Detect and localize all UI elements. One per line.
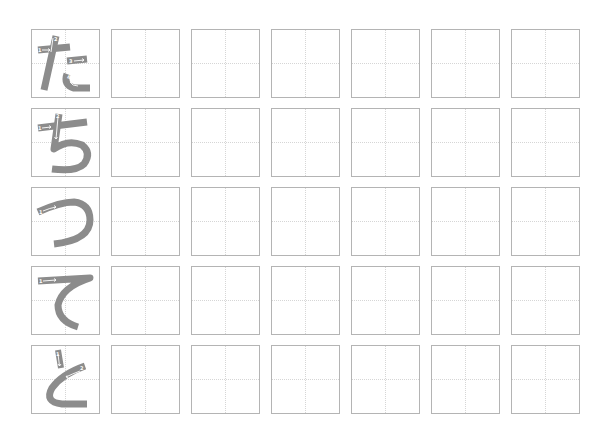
practice-box[interactable]: [111, 266, 180, 335]
practice-box[interactable]: [351, 29, 420, 98]
model-box-tsu: 1: [31, 187, 100, 256]
practice-row-to: 1 2: [31, 345, 591, 414]
practice-box[interactable]: [111, 187, 180, 256]
stroke-number: 1: [56, 351, 60, 357]
practice-box[interactable]: [431, 345, 500, 414]
practice-box[interactable]: [191, 187, 260, 256]
practice-box[interactable]: [431, 266, 500, 335]
practice-box[interactable]: [191, 108, 260, 177]
practice-box[interactable]: [271, 266, 340, 335]
practice-box[interactable]: [511, 29, 580, 98]
practice-box[interactable]: [111, 29, 180, 98]
practice-box[interactable]: [271, 29, 340, 98]
practice-box[interactable]: [271, 187, 340, 256]
practice-box[interactable]: [511, 108, 580, 177]
model-box-te: 1: [31, 266, 100, 335]
stroke-number: 1: [39, 209, 43, 215]
practice-box[interactable]: [191, 266, 260, 335]
practice-box[interactable]: [511, 345, 580, 414]
practice-box[interactable]: [431, 187, 500, 256]
practice-box[interactable]: [191, 29, 260, 98]
practice-box[interactable]: [351, 108, 420, 177]
stroke-number: 2: [56, 113, 60, 119]
stroke-order-glyph-te: 1: [32, 267, 99, 334]
practice-box[interactable]: [431, 108, 500, 177]
practice-box[interactable]: [111, 108, 180, 177]
stroke-order-glyph-tsu: 1: [32, 188, 99, 255]
model-box-to: 1 2: [31, 345, 100, 414]
stroke-order-glyph-chi: 1 2: [32, 109, 99, 176]
practice-box[interactable]: [431, 29, 500, 98]
practice-box[interactable]: [271, 108, 340, 177]
stroke-number: 4: [67, 74, 71, 80]
stroke-order-glyph-ta: 1 2 3 4: [32, 30, 99, 97]
practice-box[interactable]: [351, 345, 420, 414]
stroke-number: 1: [38, 47, 42, 53]
practice-box[interactable]: [191, 345, 260, 414]
stroke-number: 3: [69, 58, 73, 64]
stroke-number: 2: [80, 365, 84, 371]
stroke-number: 1: [38, 125, 42, 131]
model-box-chi: 1 2: [31, 108, 100, 177]
practice-box[interactable]: [511, 187, 580, 256]
practice-box[interactable]: [111, 345, 180, 414]
practice-row-ta: 1 2 3 4: [31, 29, 591, 98]
practice-row-chi: 1 2: [31, 108, 591, 177]
practice-box[interactable]: [351, 266, 420, 335]
practice-box[interactable]: [511, 266, 580, 335]
stroke-order-glyph-to: 1 2: [32, 346, 99, 413]
practice-row-te: 1: [31, 266, 591, 335]
stroke-number: 1: [39, 278, 43, 284]
practice-box[interactable]: [271, 345, 340, 414]
stroke-number: 2: [54, 36, 58, 42]
hiragana-practice-sheet: 1 2 3 4 1 2: [0, 0, 605, 432]
practice-row-tsu: 1: [31, 187, 591, 256]
model-box-ta: 1 2 3 4: [31, 29, 100, 98]
practice-box[interactable]: [351, 187, 420, 256]
